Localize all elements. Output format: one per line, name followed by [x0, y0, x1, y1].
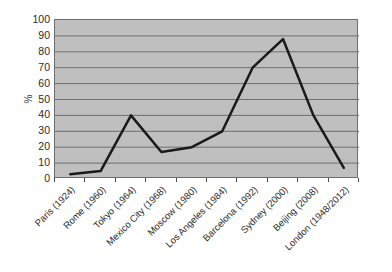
x-axis-tick-labels: Paris (1924)Rome (1960)Tokyo (1964)Mexic… [0, 178, 392, 272]
y-axis-tick-label: 10 [24, 156, 50, 168]
y-axis-tick-label: 70 [24, 61, 50, 73]
y-axis-tick-labels: 1009080706050403020100 [24, 12, 50, 186]
y-axis-tick-label: 80 [24, 45, 50, 57]
y-axis-tick-label: 50 [24, 93, 50, 105]
y-axis-tick-label: 30 [24, 124, 50, 136]
data-series-line [70, 39, 344, 174]
gridlines [55, 36, 359, 163]
y-axis-tick-label: 60 [24, 77, 50, 89]
plot-area [54, 19, 358, 178]
plot-svg [55, 20, 359, 179]
y-axis-tick-label: 40 [24, 108, 50, 120]
y-axis-tick-label: 90 [24, 29, 50, 41]
y-axis-tick-label: 20 [24, 140, 50, 152]
y-axis-tick-label: 100 [24, 13, 50, 25]
line-chart: % 1009080706050403020100 Paris (1924)Rom… [0, 0, 392, 272]
